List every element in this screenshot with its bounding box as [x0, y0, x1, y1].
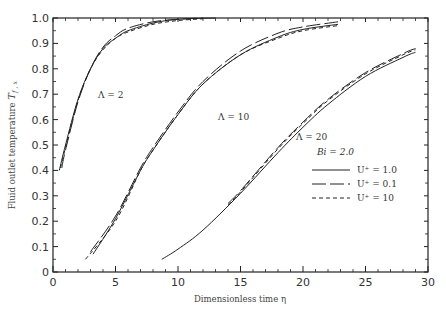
x-tick-label: 10: [171, 276, 185, 289]
x-tick-label: 20: [296, 276, 310, 289]
x-axis-title: Dimensionless time η: [194, 294, 286, 304]
y-tick-label: 0.6: [32, 114, 50, 127]
y-tick-label: 0: [42, 266, 49, 279]
x-tick-label: 15: [234, 276, 248, 289]
y-tick-label: 0.3: [32, 190, 50, 203]
annotation-lambda-2: Λ = 2: [97, 90, 124, 100]
y-axis-title-subscript: f , x: [11, 80, 19, 94]
x-tick-label: 5: [112, 276, 119, 289]
curves: [59, 18, 415, 259]
legend-label-1: U⁺ = 1.0: [357, 165, 397, 175]
curve-long-dash: [62, 18, 203, 168]
y-axis-title: Fluid outlet temperature Tf , x: [6, 80, 19, 209]
y-tick-label: 0.5: [32, 139, 50, 152]
annotation-lambda-10: Λ = 10: [217, 112, 249, 122]
x-tick-label: 25: [359, 276, 373, 289]
x-tick-label: 30: [421, 276, 435, 289]
y-tick-label: 0.1: [32, 241, 50, 254]
y-tick-label: 0.2: [32, 215, 50, 228]
x-tick-label: 0: [50, 276, 57, 289]
legend: Bi = 2.0 U⁺ = 1.0 U⁺ = 0.1 U⁺ = 10: [312, 147, 397, 203]
chart: 051015202530 00.10.20.30.40.50.60.70.80.…: [0, 0, 446, 313]
y-tick-label: 0.9: [32, 37, 50, 50]
y-axis-ticks: 00.10.20.30.40.50.60.70.80.91.0: [32, 12, 429, 279]
annotation-lambda-20: Λ = 20: [295, 132, 327, 142]
y-tick-label: 0.7: [32, 88, 50, 101]
curve-solid: [162, 52, 416, 259]
curve-short-dash: [86, 26, 339, 260]
plot-frame: [53, 18, 428, 272]
y-tick-label: 0.8: [32, 63, 50, 76]
curve-short-dash: [61, 19, 204, 168]
y-tick-label: 1.0: [32, 12, 50, 25]
y-tick-label: 0.4: [32, 164, 50, 177]
legend-title: Bi = 2.0: [316, 147, 354, 157]
y-axis-title-text: Fluid outlet temperature: [7, 100, 17, 210]
x-axis-ticks: 051015202530: [50, 18, 436, 289]
legend-label-2: U⁺ = 0.1: [357, 179, 397, 189]
legend-label-3: U⁺ = 10: [357, 193, 394, 203]
plot-border: [53, 18, 428, 272]
